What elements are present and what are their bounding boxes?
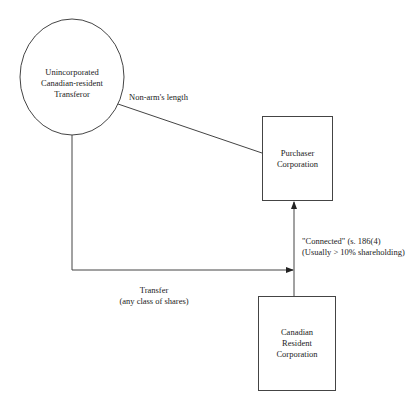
connected-label-line-2: (Usually > 10% shareholding) (302, 247, 405, 258)
transferor-line-2: Canadian-resident (22, 78, 122, 89)
resident-corp-line-2: Resident (276, 338, 317, 349)
non-arms-length-line (118, 104, 262, 153)
purchaser-line-1: Purchaser (277, 148, 318, 159)
resident-corp-line-3: Corporation (276, 349, 317, 360)
purchaser-corporation-box: Purchaser Corporation (262, 116, 333, 201)
transferor-label: Unincorporated Canadian-resident Transfe… (22, 67, 122, 100)
canadian-resident-corporation-box: Canadian Resident Corporation (258, 296, 336, 391)
purchaser-line-2: Corporation (277, 159, 318, 170)
transferor-line-1: Unincorporated (22, 67, 122, 78)
non-arms-length-label: Non-arm's length (129, 92, 188, 103)
connector-lines (0, 0, 414, 408)
connected-label-line-1: "Connected" (s. 186(4) (302, 236, 405, 247)
transferor-line-3: Transferor (22, 89, 122, 100)
transfer-label: Transfer (any class of shares) (114, 285, 194, 307)
resident-corp-line-1: Canadian (276, 327, 317, 338)
connected-label: "Connected" (s. 186(4) (Usually > 10% sh… (302, 236, 405, 258)
transfer-arrow (72, 135, 293, 270)
transfer-label-line-2: (any class of shares) (114, 296, 194, 307)
transfer-label-line-1: Transfer (114, 285, 194, 296)
